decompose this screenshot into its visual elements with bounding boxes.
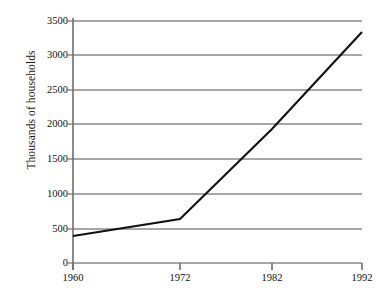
- line-chart: Thousands of households 3500 3000 2500 2…: [0, 0, 377, 296]
- x-axis-ticks: [73, 263, 362, 270]
- data-line-households: [73, 32, 362, 236]
- gridlines: [66, 21, 362, 263]
- chart-canvas: [0, 0, 377, 296]
